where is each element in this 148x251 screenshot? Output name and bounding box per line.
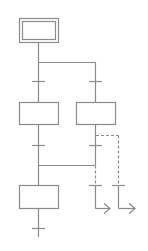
- step-right[interactable]: [77, 103, 116, 125]
- sfc-diagram: [0, 0, 148, 251]
- initial-step-inner: [23, 22, 56, 40]
- step-join[interactable]: [20, 186, 59, 209]
- step-left[interactable]: [20, 103, 59, 125]
